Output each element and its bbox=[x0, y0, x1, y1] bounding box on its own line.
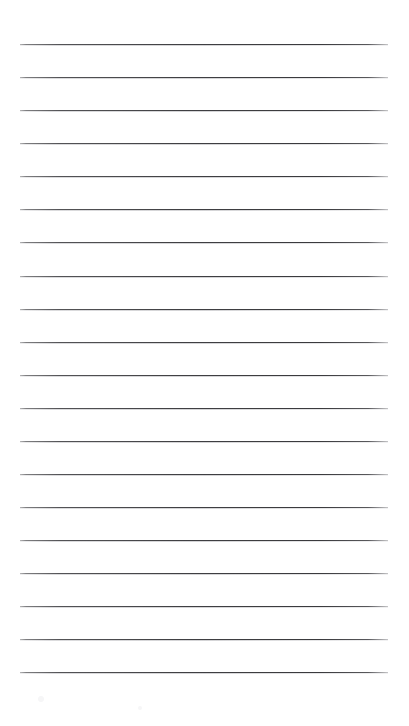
ruled-line bbox=[20, 672, 388, 673]
ruled-line bbox=[20, 375, 388, 376]
ruled-line bbox=[20, 110, 388, 111]
lined-paper-page bbox=[0, 0, 409, 726]
ruled-line bbox=[20, 209, 388, 210]
ruled-line bbox=[20, 639, 388, 640]
scan-speck bbox=[38, 696, 44, 702]
ruled-line bbox=[20, 242, 388, 243]
ruled-line bbox=[20, 77, 388, 78]
ruled-line bbox=[20, 44, 388, 45]
ruled-line bbox=[20, 441, 388, 442]
ruled-line bbox=[20, 143, 388, 144]
ruled-line bbox=[20, 540, 388, 541]
ruled-line bbox=[20, 474, 388, 475]
scan-speck bbox=[138, 706, 142, 710]
ruled-line bbox=[20, 408, 388, 409]
ruled-line bbox=[20, 507, 388, 508]
ruled-line bbox=[20, 276, 388, 277]
ruled-line bbox=[20, 176, 388, 177]
ruled-line bbox=[20, 342, 388, 343]
ruled-line bbox=[20, 309, 388, 310]
ruled-line bbox=[20, 606, 388, 607]
ruled-writing-area[interactable] bbox=[0, 0, 409, 726]
ruled-line bbox=[20, 573, 388, 574]
